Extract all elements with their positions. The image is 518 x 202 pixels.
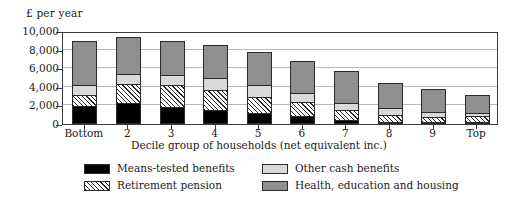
x-axis-tick-mark xyxy=(215,125,216,129)
bar-segment xyxy=(203,78,228,91)
bar-3 xyxy=(160,41,185,124)
bar-segment xyxy=(160,107,185,124)
bar-segment xyxy=(290,61,315,93)
bar-segment xyxy=(72,106,97,124)
legend-label: Health, education and housing xyxy=(295,180,459,191)
legend-swatch xyxy=(84,181,110,191)
legend-swatch xyxy=(262,164,288,174)
x-axis-tick-mark xyxy=(127,125,128,129)
bar-segment xyxy=(465,122,490,124)
stacked-bar-chart-figure: £ per year 02,0004,0006,0008,00010,000 B… xyxy=(0,0,518,202)
bar-segment xyxy=(203,45,228,77)
bar-2 xyxy=(116,37,141,124)
bar-segment xyxy=(116,84,141,104)
legend-label: Other cash benefits xyxy=(295,163,399,174)
y-axis-tick-label: 2,000 xyxy=(0,100,59,110)
y-axis-tick-label: 10,000 xyxy=(0,26,59,36)
bar-segment xyxy=(72,95,97,106)
x-axis-tick-mark xyxy=(258,125,259,129)
x-axis-tick-mark xyxy=(433,125,434,129)
y-axis-tick-label: 0 xyxy=(0,119,59,129)
bar-segment xyxy=(72,41,97,85)
bar-segment xyxy=(290,116,315,124)
bar-6 xyxy=(290,61,315,124)
bar-segment xyxy=(72,85,97,95)
x-axis-title: Decile group of households (net equivale… xyxy=(0,139,518,151)
chart-legend: Means-tested benefitsOther cash benefits… xyxy=(84,160,459,194)
bar-segment xyxy=(334,71,359,103)
bar-segment xyxy=(203,90,228,110)
y-axis-tick-label: 6,000 xyxy=(0,63,59,73)
bar-segment xyxy=(160,75,185,85)
legend-label: Means-tested benefits xyxy=(117,163,235,174)
bar-segment xyxy=(116,37,141,74)
legend-item: Other cash benefits xyxy=(262,160,459,177)
y-axis-label: £ per year xyxy=(26,7,83,19)
bar-segment xyxy=(116,103,141,124)
x-axis-tick-mark xyxy=(345,125,346,129)
bar-8 xyxy=(378,83,403,124)
bar-9 xyxy=(421,89,446,124)
bar-segment xyxy=(203,110,228,124)
legend-item: Health, education and housing xyxy=(262,177,459,194)
bar-7 xyxy=(334,71,359,124)
y-axis-tick-mark xyxy=(56,125,62,126)
bar-segment xyxy=(247,85,272,97)
legend-swatch xyxy=(262,181,288,191)
bar-segment xyxy=(290,102,315,116)
legend-label: Retirement pension xyxy=(117,180,222,191)
bar-top xyxy=(465,95,490,124)
legend-swatch xyxy=(84,164,110,174)
bar-segment xyxy=(465,95,490,114)
plot-area xyxy=(62,32,498,125)
x-axis-tick-mark xyxy=(171,125,172,129)
y-axis-tick-label: 8,000 xyxy=(0,45,59,55)
bar-segment xyxy=(247,113,272,124)
bar-segment xyxy=(116,74,141,84)
bar-segment xyxy=(334,110,359,120)
bar-segment xyxy=(378,122,403,124)
legend-item: Retirement pension xyxy=(84,177,234,194)
bar-bottom xyxy=(72,41,97,124)
bar-segment xyxy=(160,41,185,75)
bar-segment xyxy=(378,83,403,108)
bar-segment xyxy=(247,97,272,113)
bar-segment xyxy=(421,89,446,112)
bar-segment xyxy=(334,103,359,110)
bar-segment xyxy=(378,108,403,115)
bar-segment xyxy=(334,120,359,124)
x-axis-tick-mark xyxy=(302,125,303,129)
x-axis-tick-mark xyxy=(84,125,85,129)
x-axis-tick-mark xyxy=(389,125,390,129)
y-axis-tick-label: 4,000 xyxy=(0,82,59,92)
bar-segment xyxy=(160,85,185,107)
legend-item: Means-tested benefits xyxy=(84,160,234,177)
bar-4 xyxy=(203,45,228,124)
bar-segment xyxy=(421,122,446,124)
bar-segment xyxy=(247,52,272,85)
bar-5 xyxy=(247,52,272,124)
x-axis-tick-mark xyxy=(476,125,477,129)
bar-segment xyxy=(290,93,315,102)
